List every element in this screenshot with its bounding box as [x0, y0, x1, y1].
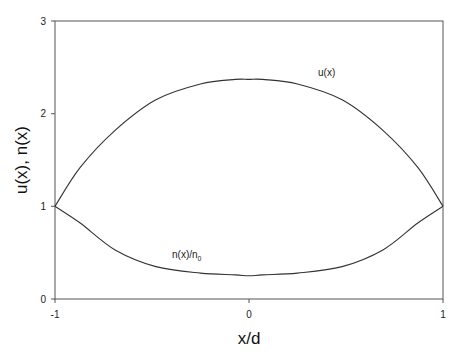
xtick-label: 1 — [440, 309, 446, 320]
y-ticks — [51, 21, 55, 299]
plot-frame — [55, 21, 443, 299]
ytick-label: 3 — [40, 16, 46, 27]
n-curve-label: n(x)/n0 — [172, 249, 202, 262]
n-label-main: n(x)/n — [172, 249, 198, 260]
n-label-subscript: 0 — [198, 255, 202, 262]
ytick-label: 2 — [40, 108, 46, 119]
ytick-label: 1 — [40, 201, 46, 212]
y-axis-title: u(x), n(x) — [12, 126, 31, 194]
x-axis-title: x/d — [238, 329, 261, 348]
ytick-label: 0 — [40, 294, 46, 305]
n-curve — [55, 206, 443, 275]
x-ticks — [55, 299, 443, 303]
x-tick-labels: -1 0 1 — [51, 309, 447, 320]
xtick-label: 0 — [246, 309, 252, 320]
u-curve — [55, 79, 443, 206]
u-curve-label: u(x) — [318, 67, 335, 78]
xtick-label: -1 — [51, 309, 60, 320]
chart: 0 1 2 3 -1 0 1 x/d u(x), n(x) u(x) n(x)/… — [0, 0, 458, 362]
y-tick-labels: 0 1 2 3 — [40, 16, 46, 305]
